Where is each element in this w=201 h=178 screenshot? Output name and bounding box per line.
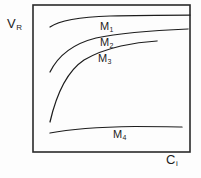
curve-label-m4: M4	[113, 128, 126, 140]
curve-label-m3-symbol: M	[98, 52, 107, 64]
y-axis-label: VR	[7, 16, 22, 31]
x-axis-label-symbol: C	[166, 152, 176, 167]
figure-root: VR Ci M1 M2 M3 M4	[0, 0, 201, 178]
curve-label-m2-subscript: 2	[109, 42, 113, 49]
curve-label-m1-subscript: 1	[109, 26, 113, 33]
curve-label-m4-symbol: M	[113, 128, 122, 140]
y-axis-label-subscript: R	[16, 23, 22, 32]
curve-label-m3: M3	[98, 52, 111, 64]
curve-label-m4-subscript: 4	[122, 134, 126, 141]
x-axis-label-subscript: i	[176, 159, 178, 168]
curve-label-m1: M1	[100, 20, 113, 32]
y-axis-label-symbol: V	[7, 16, 16, 31]
curve-label-m3-subscript: 3	[107, 58, 111, 65]
curve-label-m1-symbol: M	[100, 20, 109, 32]
curve-label-m2-symbol: M	[100, 36, 109, 48]
x-axis-label: Ci	[166, 152, 178, 167]
curve-label-m2: M2	[100, 36, 113, 48]
